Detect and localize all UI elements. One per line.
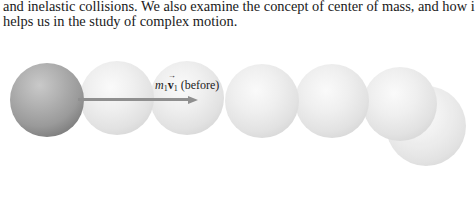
- sphere-ghost-5: [363, 67, 437, 141]
- mass-symbol: m: [155, 78, 164, 92]
- label-qualifier: (before): [181, 78, 220, 92]
- velocity-subscript: 1: [174, 84, 178, 93]
- sphere-ghost-3: [225, 64, 299, 138]
- vector-arrow-icon: →: [168, 71, 176, 80]
- sphere-ghost-4: [295, 64, 369, 138]
- sphere-moving-ball: [10, 63, 84, 137]
- velocity-vector: v→: [168, 78, 174, 92]
- momentum-arrow-shaft: [78, 98, 190, 101]
- momentum-label: m1v→1 (before): [155, 78, 219, 93]
- momentum-arrow-head: [188, 96, 198, 104]
